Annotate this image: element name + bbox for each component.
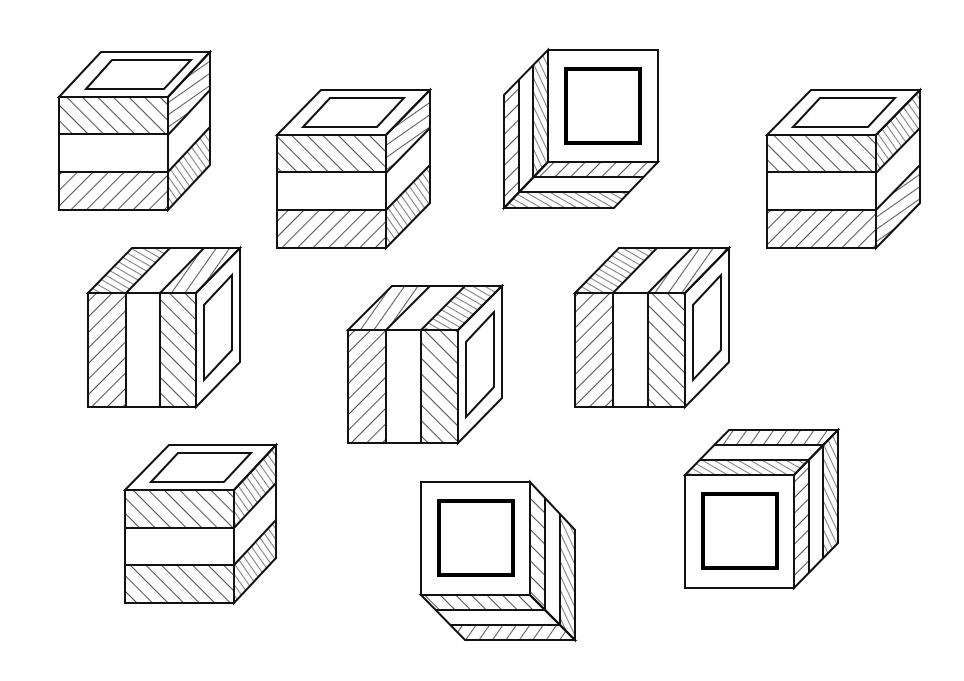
cube-3	[504, 50, 658, 208]
cube-2	[277, 90, 430, 248]
cube-1-front-band-bottom	[59, 172, 168, 210]
cube-9-bold-square-icon	[439, 501, 513, 575]
cube-6-front-band-right	[421, 330, 458, 443]
cube-3-side-band-left	[504, 79, 519, 208]
cube-3-bold-square-icon	[566, 69, 640, 143]
cube-1-front-band-top	[59, 97, 168, 134]
cube-10-bold-square-icon	[703, 494, 777, 568]
cube-6-top-band-right	[421, 286, 502, 330]
cube-10-side-band-left	[794, 460, 809, 588]
cube-7-front-band-left	[575, 293, 613, 407]
cube-9	[421, 482, 575, 640]
cube-8-front-band-bottom	[125, 565, 234, 603]
cube-3-bottom-band-bottom	[504, 192, 629, 208]
cube-5-top-band-right	[160, 248, 240, 293]
cube-4-front-band-bottom	[767, 210, 876, 248]
cube-4-side-band-top	[876, 90, 920, 173]
cube-5	[88, 248, 240, 407]
cube-5-front-band-middle	[126, 293, 160, 407]
cube-6	[348, 286, 502, 443]
cube-8	[125, 445, 276, 603]
cube-6-side-square-icon	[466, 312, 494, 417]
cube-9-bottom-band-bottom	[450, 625, 575, 640]
cube-1	[59, 52, 210, 210]
cube-2-front-band-middle	[277, 172, 386, 210]
cube-2-front-band-top	[277, 135, 386, 172]
cube-4-front-band-middle	[767, 172, 876, 210]
cube-9-side-band-right	[560, 514, 575, 640]
cube-8-side-band-bottom	[234, 520, 276, 603]
cube-4-side-band-bottom	[876, 165, 920, 248]
cube-figure-svg	[0, 0, 964, 681]
cube-7-side-square-icon	[693, 275, 721, 380]
cube-3-side-band-right	[533, 50, 548, 178]
cube-diagram	[0, 0, 964, 681]
cube-2-front-band-bottom	[277, 210, 386, 248]
cube-8-front-band-middle	[125, 528, 234, 565]
cube-10-side-band-right	[823, 430, 838, 558]
cube-7-top-band-right	[648, 248, 729, 293]
cube-7-front-band-right	[648, 293, 685, 407]
cube-6-top-band-left	[348, 286, 430, 330]
cube-10-top-band-back	[714, 430, 838, 445]
cube-5-front-band-left	[88, 293, 126, 407]
cube-1-side-band-bottom	[168, 127, 210, 210]
cube-8-side-band-top	[234, 445, 276, 528]
cube-3-bottom-band-top	[533, 162, 658, 177]
cube-10	[685, 430, 838, 588]
cube-8-top-square-icon	[151, 453, 251, 482]
cube-10-top-band-front	[685, 460, 809, 475]
cube-6-front-band-left	[348, 330, 386, 443]
cube-1-front-band-middle	[59, 134, 168, 172]
cube-5-front-band-right	[160, 293, 196, 407]
cube-4-front-band-top	[767, 135, 876, 172]
cube-2-top-square-icon	[303, 98, 404, 127]
cube-7-front-band-middle	[613, 293, 648, 407]
cube-5-top-band-left	[88, 248, 170, 293]
cube-9-bottom-band-top	[421, 595, 545, 610]
cube-8-front-band-top	[125, 490, 234, 528]
cube-1-top-square-icon	[86, 60, 191, 89]
cube-4-top-square-icon	[793, 98, 895, 127]
cube-5-side-square-icon	[204, 275, 232, 380]
cube-2-side-band-bottom	[386, 165, 430, 248]
cube-7-top-band-left	[575, 248, 657, 293]
cube-9-side-band-left	[530, 482, 545, 610]
cube-6-front-band-middle	[386, 330, 421, 443]
cube-2-side-band-top	[386, 90, 430, 173]
cube-7	[575, 248, 729, 407]
cube-4	[767, 90, 920, 248]
cube-1-side-band-top	[168, 52, 210, 135]
